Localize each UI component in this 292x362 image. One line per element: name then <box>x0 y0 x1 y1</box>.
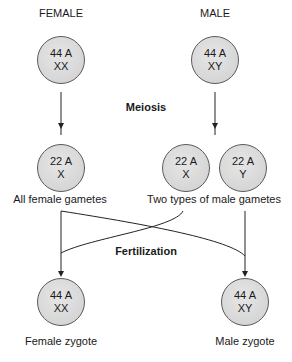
female-gamete-cell: 22 A X <box>37 144 85 192</box>
male-gamete-y-cell: 22 A Y <box>219 144 267 192</box>
cell-autosomes: 22 A <box>232 155 254 168</box>
male-gamete-x-cell: 22 A X <box>162 144 210 192</box>
meiosis-label: Meiosis <box>126 101 166 113</box>
female-zygote-label: Female zygote <box>25 335 97 347</box>
cell-sex-chromosomes: Y <box>239 168 246 181</box>
cell-autosomes: 22 A <box>50 155 72 168</box>
cell-sex-chromosomes: XX <box>54 302 69 315</box>
cell-autosomes: 22 A <box>175 155 197 168</box>
male-zygote-cell: 44 A XY <box>221 278 269 326</box>
fertilization-label: Fertilization <box>115 245 177 257</box>
cell-autosomes: 44 A <box>234 289 256 302</box>
cell-autosomes: 44 A <box>204 47 226 60</box>
cell-autosomes: 44 A <box>50 289 72 302</box>
cell-sex-chromosomes: X <box>57 168 64 181</box>
female-gametes-label: All female gametes <box>13 193 107 205</box>
female-parent-cell: 44 A XX <box>37 36 85 84</box>
male-gametes-label: Two types of male gametes <box>147 193 281 205</box>
male-header: MALE <box>200 7 230 19</box>
cell-sex-chromosomes: XX <box>54 60 69 73</box>
cell-sex-chromosomes: XY <box>238 302 253 315</box>
cell-autosomes: 44 A <box>50 47 72 60</box>
female-header: FEMALE <box>39 7 83 19</box>
male-parent-cell: 44 A XY <box>191 36 239 84</box>
female-zygote-cell: 44 A XX <box>37 278 85 326</box>
cell-sex-chromosomes: XY <box>208 60 223 73</box>
male-zygote-label: Male zygote <box>215 335 274 347</box>
cell-sex-chromosomes: X <box>182 168 189 181</box>
